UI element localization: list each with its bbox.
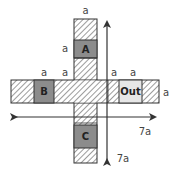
cross-diagram: A B C Out a a a a a a a 7a 7a	[0, 0, 178, 181]
label-vertical-span: 7a	[117, 153, 130, 164]
label-top-width: a	[82, 5, 88, 16]
label-horizontal-span: 7a	[139, 126, 152, 137]
cell-out-label: Out	[120, 86, 141, 97]
label-right-arm-2: a	[130, 67, 136, 78]
cell-b-label: B	[40, 86, 48, 97]
cell-c: C	[74, 125, 97, 148]
label-left-arm-2: a	[62, 67, 68, 78]
cell-a: A	[74, 40, 97, 58]
cell-a-label: A	[82, 44, 90, 55]
cell-b: B	[34, 80, 54, 103]
label-a-height: a	[62, 43, 68, 54]
label-left-arm-1: a	[41, 67, 47, 78]
label-right-arm-1: a	[111, 67, 117, 78]
cell-c-label: C	[82, 131, 89, 142]
cell-out: Out	[119, 80, 142, 103]
label-right-arm-height: a	[163, 87, 169, 98]
